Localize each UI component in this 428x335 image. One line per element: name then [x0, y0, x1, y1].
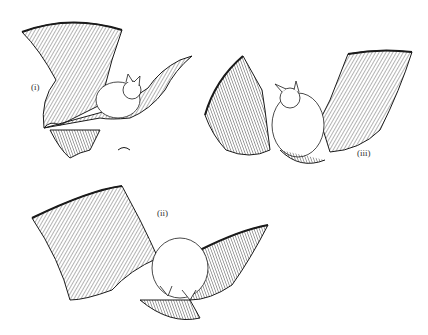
figure-label-ii: (ii)	[157, 208, 168, 218]
figure-label-i: (i)	[31, 82, 40, 92]
bat-iii	[205, 50, 412, 163]
figure-label-iii: (iii)	[357, 148, 371, 158]
bat-i	[22, 22, 192, 158]
bat-ii	[32, 186, 268, 320]
bat-illustration	[0, 0, 428, 335]
